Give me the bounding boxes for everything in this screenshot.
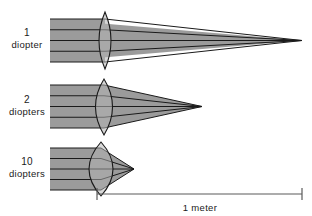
label-10-diopters-unit: diopters: [9, 168, 45, 179]
label-2-diopters-value: 2: [24, 94, 30, 105]
label-1-diopter-unit: diopter: [11, 39, 42, 50]
scale-bar-label: 1 meter: [183, 202, 217, 213]
label-1-diopter-value: 1: [24, 27, 30, 38]
label-2-diopters-unit: diopters: [9, 106, 45, 117]
lens-diopter-diagram: 1 diopter 2 diopters: [0, 0, 312, 216]
label-10-diopters-value: 10: [21, 156, 33, 167]
